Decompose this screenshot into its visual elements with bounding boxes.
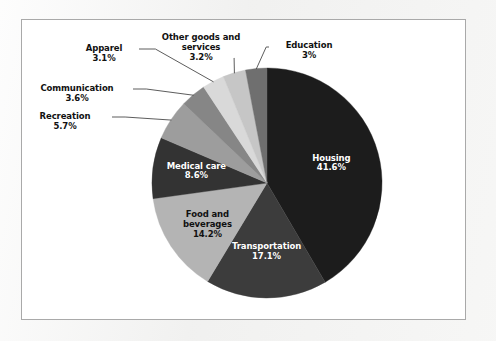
pie-label-transportation: Transportation 17.1% — [212, 242, 322, 262]
leader-line-education — [256, 47, 269, 69]
pie-label-food-and-beverages: Food and beverages 14.2% — [152, 210, 262, 240]
pie-label-medical-care: Medical care 8.6% — [141, 162, 251, 182]
leader-line-communication — [133, 89, 194, 95]
pie-label-housing: Housing 41.6% — [276, 154, 386, 174]
pie-label-other-goods-and-services: Other goods and services 3.2% — [155, 33, 247, 63]
pie-slices — [152, 68, 382, 298]
pie-label-education: Education 3% — [272, 41, 346, 61]
pie-label-communication: Communication 3.6% — [25, 84, 129, 104]
pie-label-recreation: Recreation 5.7% — [22, 112, 108, 132]
pie-label-apparel: Apparel 3.1% — [73, 44, 135, 64]
leader-line-recreation — [112, 117, 171, 120]
